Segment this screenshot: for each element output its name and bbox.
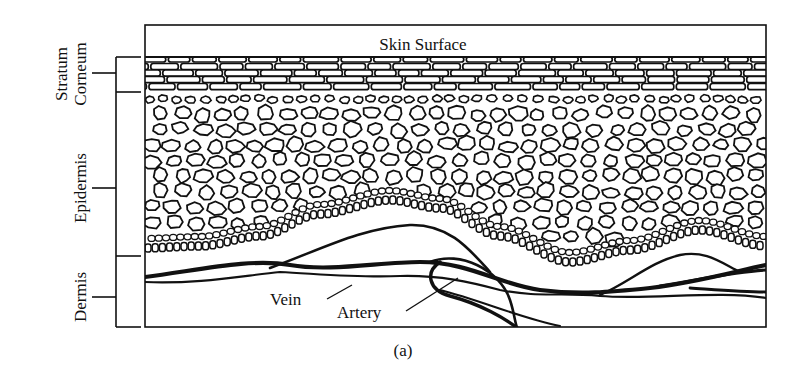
stratum-label: Stratum	[52, 47, 71, 101]
skin-cross-section-figure: Skin Surface Vein Artery (a) Stratum Cor…	[0, 0, 808, 379]
artery-label: Artery	[337, 303, 382, 322]
vessel-right-tail	[660, 270, 766, 286]
skin-surface-label: Skin Surface	[379, 35, 466, 54]
skin-diagram: Skin Surface Vein Artery (a) Stratum Cor…	[0, 0, 808, 379]
dermis-label: Dermis	[71, 272, 90, 322]
layer-bracket	[92, 57, 141, 327]
vein-callout-line	[327, 285, 352, 299]
stratum-corneum-cells	[127, 57, 790, 90]
epidermis-label: Epidermis	[71, 153, 90, 223]
vessel-right-lower	[690, 288, 766, 292]
figure-caption: (a)	[394, 341, 413, 360]
corneum-label: Corneum	[71, 42, 90, 105]
vein-label: Vein	[270, 290, 302, 309]
